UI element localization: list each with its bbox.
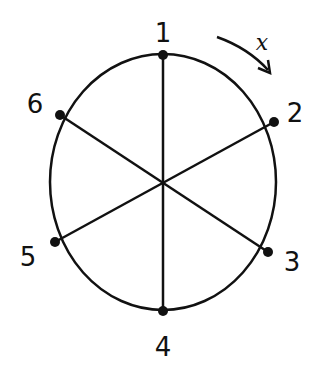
point-4 — [158, 306, 168, 316]
point-5 — [50, 237, 60, 247]
label-6: 6 — [27, 89, 44, 119]
diameter-2-5 — [55, 122, 274, 242]
label-3: 3 — [284, 247, 301, 277]
point-3 — [263, 247, 273, 257]
label-1: 1 — [155, 18, 172, 48]
label-2: 2 — [287, 98, 304, 128]
point-1 — [158, 50, 168, 60]
label-5: 5 — [20, 242, 37, 272]
point-2 — [269, 117, 279, 127]
rotation-label: x — [256, 30, 269, 55]
point-6 — [55, 110, 65, 120]
circle-diagram: 1 2 3 4 5 6 x — [0, 0, 322, 373]
label-4: 4 — [155, 332, 172, 362]
